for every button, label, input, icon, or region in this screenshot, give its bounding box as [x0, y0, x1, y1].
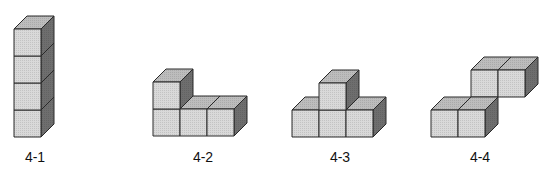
figure-label-4-3: 4-3: [330, 149, 350, 165]
figure-label-4-4: 4-4: [470, 149, 490, 165]
figure-label-4-1: 4-1: [25, 149, 45, 165]
face-texture: [346, 110, 373, 137]
face-texture: [431, 110, 458, 137]
figure-4-3: [292, 70, 386, 137]
figure-4-4: [431, 57, 538, 137]
face-texture: [180, 109, 207, 136]
face-texture: [292, 110, 319, 137]
face-texture: [319, 110, 346, 137]
face-texture: [471, 70, 498, 97]
face-texture: [14, 83, 41, 110]
face-texture: [319, 83, 346, 110]
figure-4-2: [153, 69, 247, 136]
cube-figures-diagram: 4-1 4-2 4-3 4-4: [0, 0, 543, 171]
face-texture: [498, 70, 525, 97]
face-texture: [458, 110, 485, 137]
face-texture: [153, 109, 180, 136]
face-texture: [207, 109, 234, 136]
face-texture: [14, 56, 41, 83]
figure-label-4-2: 4-2: [193, 149, 213, 165]
face-texture: [14, 110, 41, 137]
face-texture: [153, 82, 180, 109]
figure-4-1: [14, 16, 54, 137]
face-texture: [14, 29, 41, 56]
